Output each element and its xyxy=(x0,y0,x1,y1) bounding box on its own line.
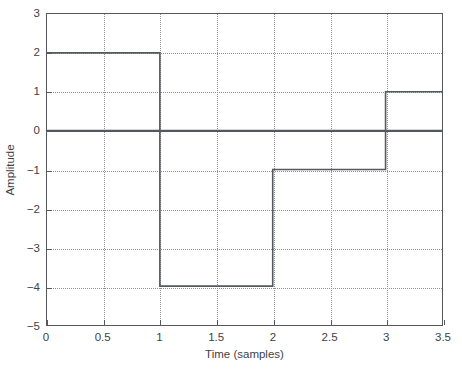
y-tick-label: 1 xyxy=(0,85,40,98)
y-tick-mark xyxy=(47,171,52,172)
y-tick-mark xyxy=(47,53,52,54)
x-axis-title: Time (samples) xyxy=(46,348,443,360)
series-step-signal xyxy=(47,53,442,286)
y-tick-mark xyxy=(47,288,52,289)
x-tick-label: 3.5 xyxy=(435,331,451,344)
x-tick-label: 2 xyxy=(270,331,276,344)
x-tick-mark xyxy=(104,320,105,325)
x-tick-mark xyxy=(274,320,275,325)
plot-area xyxy=(46,13,443,326)
y-tick-label: 3 xyxy=(0,7,40,20)
x-tick-label: 3 xyxy=(383,331,389,344)
y-tick-label: −3 xyxy=(0,241,40,254)
y-tick-mark xyxy=(47,210,52,211)
y-tick-mark xyxy=(47,249,52,250)
y-tick-mark xyxy=(47,92,52,93)
x-tick-label: 1.5 xyxy=(208,331,224,344)
x-tick-mark xyxy=(217,320,218,325)
y-tick-label: −5 xyxy=(0,320,40,333)
y-tick-label: −1 xyxy=(0,163,40,176)
y-tick-label: −2 xyxy=(0,202,40,215)
x-tick-mark xyxy=(47,320,48,325)
y-tick-label: −4 xyxy=(0,280,40,293)
x-tick-mark xyxy=(444,320,445,325)
y-tick-label: 2 xyxy=(0,46,40,59)
x-tick-mark xyxy=(331,320,332,325)
x-tick-mark xyxy=(387,320,388,325)
y-tick-mark xyxy=(47,131,52,132)
x-tick-label: 1 xyxy=(156,331,162,344)
data-layer xyxy=(47,14,442,325)
x-tick-label: 0.5 xyxy=(95,331,111,344)
y-tick-label: 0 xyxy=(0,124,40,137)
x-tick-label: 2.5 xyxy=(322,331,338,344)
x-tick-mark xyxy=(160,320,161,325)
chart-figure: Amplitude 3210−1−2−3−4−5 00.511.522.533.… xyxy=(0,0,462,374)
step-series-svg xyxy=(47,14,442,325)
x-tick-label: 0 xyxy=(43,331,49,344)
